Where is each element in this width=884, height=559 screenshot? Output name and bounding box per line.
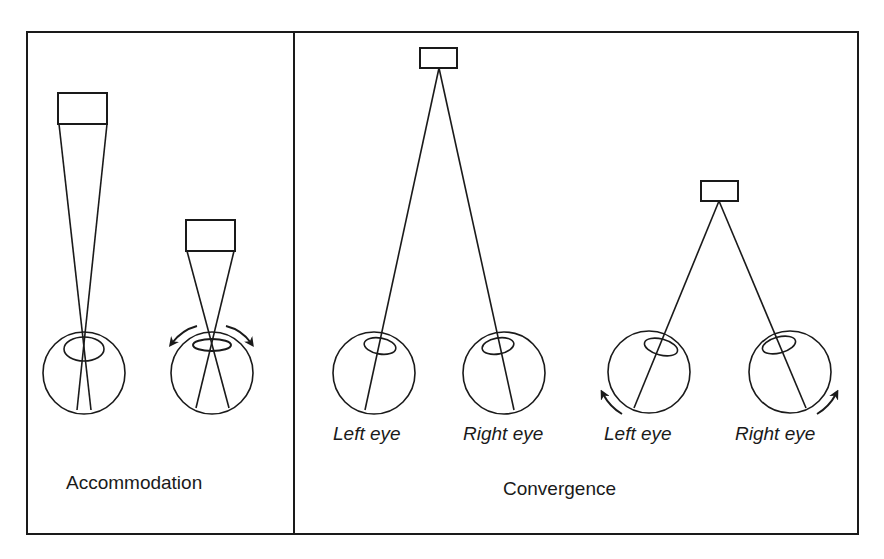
near-fixation-target [701,181,738,201]
accommodation-convergence-diagram: Accommodation Left eye Right eye Left ey… [0,0,884,559]
far-cone-left [59,124,91,410]
far-right-eye-label: Right eye [463,423,543,444]
near-left-eye-label: Left eye [604,423,672,444]
rotation-arrow-left-icon [603,394,622,414]
convergence-label: Convergence [503,478,616,499]
curved-arrow-left-icon [172,326,197,343]
accommodation-far-group [43,93,125,414]
left-eyeball [333,332,415,414]
accommodation-near-group [171,220,253,414]
near-right-eye-label: Right eye [735,423,815,444]
right-lens [481,335,515,356]
near-target-box [186,220,235,251]
near-cone-right [196,251,234,408]
near-cone-left [187,251,229,408]
convergence-far-group [333,48,545,414]
right-eyeball [463,332,545,414]
left-eye-line-of-sight-near [634,201,719,408]
rotation-arrow-right-icon [817,394,836,414]
accommodation-label: Accommodation [66,472,202,493]
outer-frame [27,32,858,534]
far-left-eye-label: Left eye [333,423,401,444]
curved-arrow-right-icon [226,326,251,343]
far-target-box [58,93,107,124]
right-eye-line-of-sight-near [719,201,806,408]
left-lens [363,335,397,356]
far-fixation-target [420,48,457,68]
right-eye-line-of-sight [439,68,514,410]
right-eyeball-rotated [749,331,831,413]
far-cone-right [77,124,107,410]
left-eye-line-of-sight [365,68,439,410]
convergence-near-group [603,181,836,414]
